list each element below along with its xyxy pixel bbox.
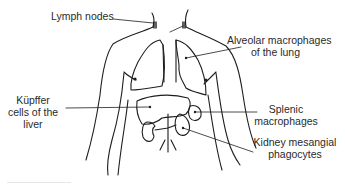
kidney-dot: [182, 127, 184, 129]
node-dot-left-axilla: [133, 77, 136, 80]
arm-right-inner: [216, 73, 240, 165]
splenic-dot: [194, 111, 196, 113]
leader-kupffer: [66, 107, 150, 108]
node-dot-right-axilla: [204, 78, 207, 81]
label-kidney-line1: Kidney mesangial: [250, 136, 340, 148]
label-splenic-macrophages: Splenic macrophages: [250, 103, 322, 127]
label-alveolar-macrophages: Alveolar macrophages of the lung: [227, 34, 331, 58]
label-kupffer-line3: liver: [6, 118, 60, 130]
label-lymph-nodes: Lymph nodes: [51, 10, 114, 22]
neck-lymph-node-left: [154, 22, 156, 28]
label-splenic-line2: macrophages: [250, 115, 322, 127]
label-alveolar-line2: of the lung: [227, 46, 331, 58]
label-kupffer-cells: Küpffer cells of the liver: [6, 94, 60, 130]
label-kidney-mesangial: Kidney mesangial phagocytes: [250, 136, 340, 160]
aorta: [155, 114, 176, 152]
leader-lymph-nodes: [113, 19, 183, 32]
axillary-node-right: [204, 72, 216, 84]
left-kidney: [142, 122, 155, 141]
label-kupffer-line1: Küpffer: [6, 94, 60, 106]
right-kidney: [175, 114, 189, 135]
right-lung: [176, 40, 206, 95]
caption-rule: [7, 182, 71, 183]
arm-left-inner: [108, 73, 124, 175]
label-splenic-line1: Splenic: [250, 103, 322, 115]
leader-kidney: [183, 128, 253, 152]
label-kidney-line2: phagocytes: [250, 148, 340, 160]
alveolar-dot: [185, 57, 187, 59]
trachea: [163, 40, 176, 82]
arm-left-crease: [118, 100, 128, 175]
label-lymph-nodes-text: Lymph nodes: [51, 10, 114, 22]
liver: [137, 95, 190, 124]
neck-lymph-node-right: [183, 22, 185, 28]
diagram-stage: Lymph nodes Alveolar macrophages of the …: [0, 0, 345, 186]
kupffer-dot: [149, 106, 151, 108]
label-kupffer-line2: cells of the: [6, 106, 60, 118]
left-lung: [131, 40, 165, 90]
label-alveolar-line1: Alveolar macrophages: [227, 34, 331, 46]
arm-right-crease: [208, 95, 222, 170]
torso-left-outline: [86, 27, 153, 160]
neck-right-outline: [185, 10, 188, 27]
